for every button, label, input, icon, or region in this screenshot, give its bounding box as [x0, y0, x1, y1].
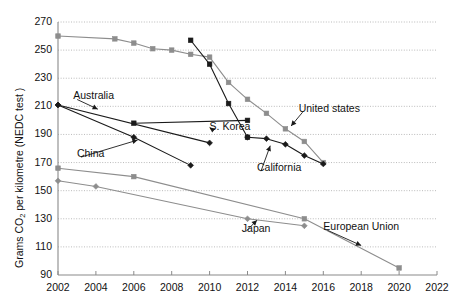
series-label-s-korea: S. Korea [210, 120, 251, 132]
x-tick-label-2016: 2016 [303, 281, 343, 293]
series-label-australia: Australia [73, 89, 114, 101]
x-tick-label-2020: 2020 [379, 281, 419, 293]
x-tick-label-2006: 2006 [114, 281, 154, 293]
series-point-european-union-3 [397, 266, 402, 271]
series-label-japan: Japan [242, 222, 271, 234]
y-tick-label-110: 110 [18, 240, 52, 252]
y-tick-label-270: 270 [18, 15, 52, 27]
x-tick-label-2018: 2018 [341, 281, 381, 293]
series-point-japan-1 [93, 184, 99, 190]
series-point-united-states-4 [169, 48, 174, 53]
series-point-united-states-8 [245, 97, 250, 102]
y-tick-label-130: 130 [18, 212, 52, 224]
series-point-united-states-11 [302, 139, 307, 144]
series-point-s-korea-steep-2 [226, 101, 231, 106]
series-line-european-union [58, 168, 399, 268]
y-tick-label-210: 210 [18, 99, 52, 111]
series-point-united-states-1 [113, 37, 118, 42]
series-point-california-1 [264, 136, 270, 142]
x-tick-label-2022: 2022 [417, 281, 453, 293]
y-tick-label-190: 190 [18, 127, 52, 139]
x-tick-label-2004: 2004 [76, 281, 116, 293]
series-point-european-union-2 [302, 216, 307, 221]
x-tick-label-2008: 2008 [152, 281, 192, 293]
series-point-china-0 [55, 102, 61, 108]
series-point-united-states-7 [226, 80, 231, 85]
y-tick-label-150: 150 [18, 184, 52, 196]
series-point-united-states-2 [132, 41, 137, 46]
series-point-european-union-1 [132, 174, 137, 179]
series-label-china: China [77, 147, 104, 159]
x-tick-label-2010: 2010 [190, 281, 230, 293]
annotation-arrow-european-union-shaft [327, 230, 361, 245]
series-label-european-union: European Union [323, 220, 399, 232]
y-tick-label-170: 170 [18, 156, 52, 168]
series-point-japan-3 [301, 223, 307, 229]
y-tick-label-230: 230 [18, 71, 52, 83]
annotation-arrow-china-head [132, 139, 138, 144]
x-tick-label-2012: 2012 [228, 281, 268, 293]
series-point-united-states-3 [150, 46, 155, 51]
x-tick-label-2002: 2002 [38, 281, 78, 293]
series-point-australia-1 [131, 134, 137, 140]
x-tick-label-2014: 2014 [265, 281, 305, 293]
y-tick-label-250: 250 [18, 43, 52, 55]
series-point-s-korea-steep-1 [207, 62, 212, 67]
series-point-united-states-10 [283, 127, 288, 132]
series-point-united-states-9 [264, 111, 269, 116]
series-point-european-union-0 [56, 166, 61, 171]
series-point-united-states-0 [56, 34, 61, 39]
y-tick-label-90: 90 [18, 268, 52, 280]
series-point-united-states-5 [188, 52, 193, 57]
series-point-california-2 [283, 141, 289, 147]
series-label-california: California [257, 161, 301, 173]
series-point-australia-2 [188, 162, 194, 168]
series-point-united-states-6 [207, 55, 212, 60]
series-point-california-3 [301, 153, 307, 159]
series-point-japan-0 [55, 178, 61, 184]
series-point-china-1 [207, 140, 213, 146]
series-point-s-korea-steep-0 [188, 38, 193, 43]
series-label-united-states: United states [299, 102, 360, 114]
